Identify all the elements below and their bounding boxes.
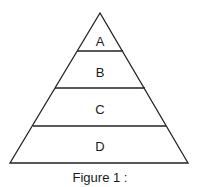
figure-caption: Figure 1 :	[73, 170, 128, 185]
level-d-label: D	[95, 139, 104, 154]
level-c-label: C	[95, 102, 104, 117]
level-b-label: B	[96, 65, 105, 80]
level-a-label: A	[96, 34, 105, 49]
pyramid-diagram: A B C D Figure 1 :	[0, 0, 198, 187]
